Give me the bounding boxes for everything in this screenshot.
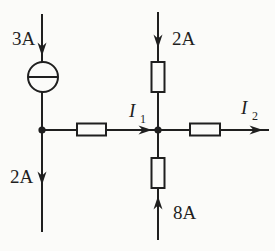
resistor-top-vertical-icon xyxy=(152,62,165,92)
node-left xyxy=(38,126,45,133)
label-current-i1-subscript: 1 xyxy=(140,112,146,126)
resistor-right-horizontal-icon xyxy=(190,124,220,136)
current-arrows xyxy=(38,35,264,210)
circuit-diagram: 3A 2A 2A 8A I 1 I 2 xyxy=(0,0,275,251)
node-center xyxy=(154,126,161,133)
resistors xyxy=(77,62,220,188)
circuit-canvas: 3A 2A 2A 8A I 1 I 2 xyxy=(0,0,275,251)
label-top-current: 2A xyxy=(172,28,196,49)
label-bottom-current: 8A xyxy=(173,202,197,223)
label-current-i2: I xyxy=(240,97,249,118)
resistor-left-horizontal-icon xyxy=(77,124,106,136)
label-left-current: 2A xyxy=(10,166,34,187)
label-source-current: 3A xyxy=(12,28,36,49)
current-source xyxy=(28,62,58,92)
label-current-i1: I xyxy=(128,100,137,121)
label-current-i2-subscript: 2 xyxy=(252,109,258,123)
resistor-bottom-vertical-icon xyxy=(152,158,165,188)
